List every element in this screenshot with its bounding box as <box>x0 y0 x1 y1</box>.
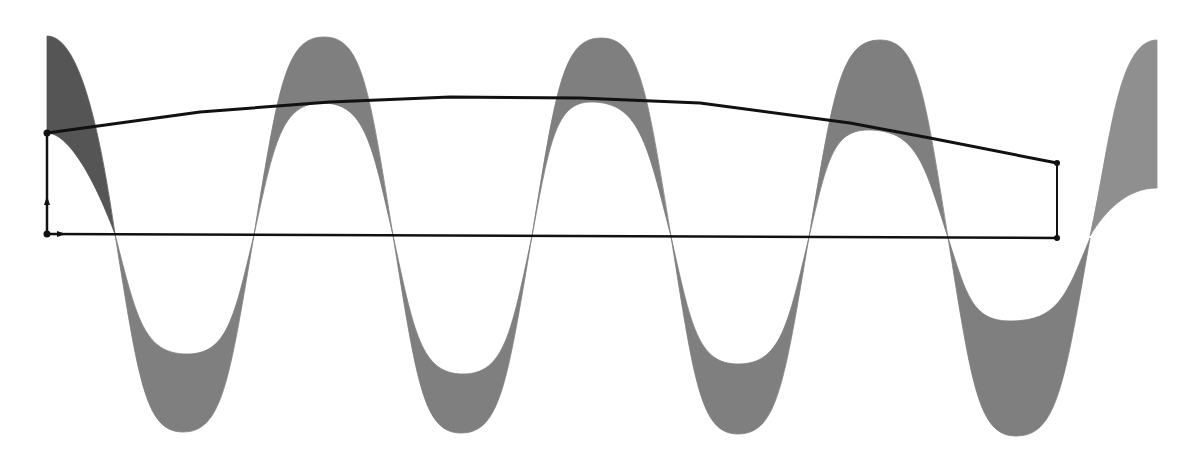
right-arrow-icon <box>57 231 66 237</box>
band-trough <box>671 236 809 434</box>
band-trough <box>115 234 254 432</box>
diagram-canvas <box>0 0 1199 458</box>
up-arrow-icon <box>44 196 50 205</box>
waveform-diagram <box>0 0 1199 458</box>
node-top-right <box>1054 160 1060 166</box>
node-bottom-right <box>1054 235 1060 241</box>
node-top-left <box>44 130 51 137</box>
band-trough <box>393 235 532 433</box>
node-bottom-left <box>44 231 51 238</box>
frame-baseline <box>47 234 1057 238</box>
band-peak <box>532 38 671 236</box>
band-end <box>1090 40 1157 236</box>
band-peak <box>254 37 393 235</box>
band-trough <box>948 238 1090 436</box>
band-start <box>47 36 115 234</box>
